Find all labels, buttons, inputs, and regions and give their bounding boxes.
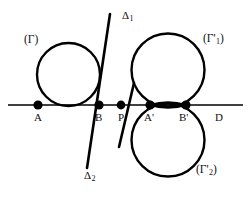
label-circle-gamma: (Γ)	[24, 34, 38, 46]
label-delta-1-subscript: 1	[129, 14, 134, 23]
label-point-a-prime-text: A'	[144, 111, 154, 123]
label-point-p: P	[118, 112, 124, 123]
label-axis-d: D	[215, 112, 223, 123]
label-line-delta-1: Δ1	[122, 10, 134, 23]
point-marker-b-prime	[181, 100, 190, 109]
label-axis-d-text: D	[215, 111, 223, 123]
label-circle-gamma-prime-2: (Γ'2)	[196, 164, 217, 177]
label-point-b-text: B	[95, 111, 102, 123]
label-point-p-text: P	[118, 111, 124, 123]
label-circle-gamma-text: (Γ)	[24, 33, 38, 45]
label-delta-2-subscript: 2	[91, 174, 96, 183]
label-gamma-prime-2-main: (Γ'	[196, 163, 209, 175]
label-point-a-prime: A'	[144, 112, 154, 123]
label-point-a-text: A	[34, 111, 42, 123]
label-point-b-prime-text: B'	[179, 111, 188, 123]
point-marker-p	[117, 101, 126, 110]
circle-gamma	[37, 43, 100, 106]
label-point-b: B	[95, 112, 102, 123]
label-gamma-prime-1-close: )	[220, 32, 224, 44]
point-marker-a	[33, 100, 42, 109]
label-gamma-prime-1-main: (Γ'	[203, 32, 216, 44]
line-delta-1	[87, 14, 110, 168]
circle-gamma-prime-2	[132, 104, 205, 177]
point-marker-a-prime	[145, 100, 154, 109]
label-point-a: A	[34, 112, 42, 123]
label-circle-gamma-prime-1: (Γ'1)	[203, 33, 224, 46]
point-marker-b	[94, 100, 103, 109]
label-line-delta-2: Δ2	[84, 170, 96, 183]
label-point-b-prime: B'	[179, 112, 188, 123]
label-gamma-prime-2-close: )	[213, 163, 217, 175]
geometry-figure: (Γ) (Γ'1) (Γ'2) Δ1 Δ2 A B P A' B' D	[0, 0, 249, 203]
circle-gamma-prime-1	[132, 34, 205, 107]
